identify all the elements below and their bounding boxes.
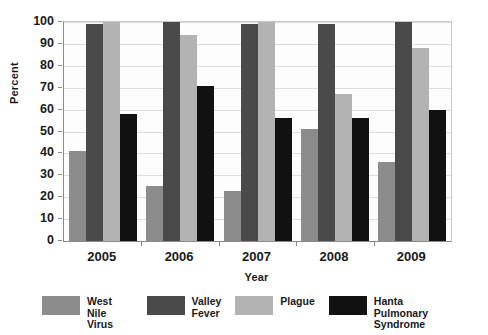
x-axis-group-divider (141, 241, 142, 246)
y-axis-tick-mark (58, 131, 62, 132)
legend-item-hanta-pulmonary-syndrome[interactable]: Hanta Pulmonary Syndrome (329, 296, 458, 331)
bar-hanta-pulmonary-syndrome-2008 (352, 118, 369, 241)
bar-plague-2005 (103, 22, 120, 241)
bar-west-nile-virus-2005 (69, 151, 86, 241)
legend-label: Valley Fever (192, 296, 222, 319)
legend-swatch-valley-fever (147, 296, 185, 315)
y-axis-tick-mark (58, 240, 62, 241)
plot-area (63, 21, 452, 242)
y-axis-tick-mark (58, 109, 62, 110)
bar-groups (64, 22, 451, 241)
bar-hanta-pulmonary-syndrome-2006 (197, 86, 214, 241)
legend-item-valley-fever[interactable]: Valley Fever (147, 296, 222, 319)
bar-plague-2007 (258, 22, 275, 241)
y-axis-tick-label: 80 (40, 59, 54, 72)
legend: West Nile VirusValley FeverPlagueHanta P… (42, 296, 472, 331)
x-axis-tick-label-2009: 2009 (373, 249, 450, 264)
bar-valley-fever-2005 (86, 24, 103, 241)
bar-hanta-pulmonary-syndrome-2009 (429, 110, 446, 241)
y-axis-tick-mark (58, 196, 62, 197)
bar-valley-fever-2008 (318, 24, 335, 241)
x-axis-group-divider (374, 241, 375, 246)
x-axis-tick-label-2008: 2008 (295, 249, 372, 264)
x-axis-tick-label-2007: 2007 (218, 249, 295, 264)
legend-swatch-hanta-pulmonary-syndrome (329, 296, 367, 315)
y-axis-tick-label: 0 (47, 234, 54, 247)
y-axis-tick-label: 20 (40, 190, 54, 203)
bar-plague-2006 (180, 35, 197, 241)
bar-hanta-pulmonary-syndrome-2005 (120, 114, 137, 241)
y-axis-tick-label: 60 (40, 102, 54, 115)
y-axis-tick-mark (58, 65, 62, 66)
bar-valley-fever-2009 (395, 22, 412, 241)
bar-hanta-pulmonary-syndrome-2007 (275, 118, 292, 241)
bar-valley-fever-2006 (163, 22, 180, 241)
bar-west-nile-virus-2007 (224, 191, 241, 241)
y-axis-tick-label: 100 (33, 15, 54, 28)
y-axis-tick-label: 40 (40, 146, 54, 159)
y-axis-tick-label: 50 (40, 124, 54, 137)
x-axis-tick-label-2005: 2005 (63, 249, 140, 264)
y-axis-tick-mark (58, 43, 62, 44)
y-axis-tick-mark (58, 21, 62, 22)
bar-west-nile-virus-2006 (146, 186, 163, 241)
legend-label: West Nile Virus (87, 296, 133, 331)
x-axis-label: Year (63, 271, 450, 283)
legend-label: Hanta Pulmonary Syndrome (374, 296, 458, 331)
x-axis-group-divider (296, 241, 297, 246)
legend-swatch-plague (235, 296, 273, 315)
bar-group-2008 (296, 22, 373, 241)
y-axis-tick-label: 70 (40, 80, 54, 93)
bar-valley-fever-2007 (241, 24, 258, 241)
bar-plague-2009 (412, 48, 429, 241)
y-axis-tick-container: 0102030405060708090100 (0, 21, 62, 240)
bar-group-2009 (374, 22, 451, 241)
bar-group-2005 (64, 22, 141, 241)
legend-item-west-nile-virus[interactable]: West Nile Virus (42, 296, 133, 331)
x-axis-tick-label-2006: 2006 (140, 249, 217, 264)
bar-group-2007 (219, 22, 296, 241)
legend-label: Plague (280, 296, 314, 308)
x-axis-tick-labels: 20052006200720082009 (63, 249, 450, 264)
y-axis-tick-mark (58, 152, 62, 153)
y-axis-tick-mark (58, 174, 62, 175)
legend-swatch-west-nile-virus (42, 296, 80, 315)
y-axis-tick-mark (58, 218, 62, 219)
bar-plague-2008 (335, 94, 352, 241)
y-axis-tick-label: 10 (40, 212, 54, 225)
bar-west-nile-virus-2008 (301, 129, 318, 241)
y-axis-tick-label: 30 (40, 168, 54, 181)
bar-group-2006 (141, 22, 218, 241)
x-axis-group-divider (219, 241, 220, 246)
bar-chart: Percent 0102030405060708090100 200520062… (0, 0, 488, 335)
bar-west-nile-virus-2009 (378, 162, 395, 241)
y-axis-tick-label: 90 (40, 37, 54, 50)
legend-item-plague[interactable]: Plague (235, 296, 314, 315)
y-axis-tick-mark (58, 87, 62, 88)
